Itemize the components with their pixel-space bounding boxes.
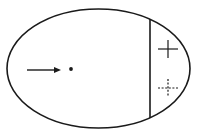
arrow-icon bbox=[27, 67, 61, 73]
outer-ellipse bbox=[7, 9, 190, 128]
dashed-plus-icon bbox=[158, 79, 178, 97]
point-dot bbox=[69, 67, 73, 71]
arrow-head bbox=[54, 67, 61, 73]
diagram-canvas bbox=[0, 0, 197, 137]
solid-plus-icon bbox=[158, 40, 178, 58]
